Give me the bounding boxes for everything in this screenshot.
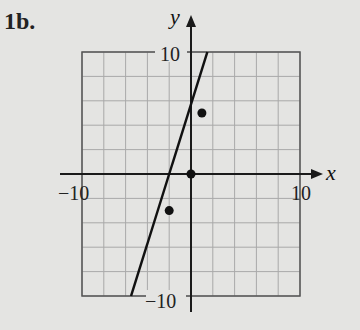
x-axis-arrow-icon xyxy=(311,169,323,179)
data-point xyxy=(197,109,206,118)
x-axis-label: x xyxy=(325,160,336,185)
x-max-tick-label: 10 xyxy=(291,182,311,204)
x-min-tick-label: −10 xyxy=(58,182,89,204)
y-axis-label: y xyxy=(168,4,180,29)
y-max-tick-label: 10 xyxy=(160,43,180,65)
data-point xyxy=(187,170,196,179)
y-axis-arrow-icon xyxy=(186,15,196,27)
scatter-plot: xy−101010−10 xyxy=(0,0,360,330)
data-point xyxy=(165,206,174,215)
y-min-tick-label: −10 xyxy=(145,290,176,312)
